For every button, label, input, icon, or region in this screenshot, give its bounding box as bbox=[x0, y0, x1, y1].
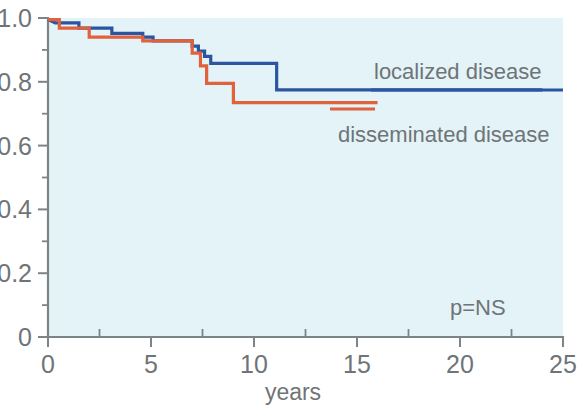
x-tick-label: 20 bbox=[446, 350, 474, 378]
x-tick-label: 25 bbox=[549, 350, 577, 378]
x-tick-label: 0 bbox=[41, 350, 55, 378]
x-tick-label: 5 bbox=[144, 350, 158, 378]
x-tick-label: 10 bbox=[240, 350, 268, 378]
x-tick-label: 15 bbox=[343, 350, 371, 378]
y-tick-label: 0.4 bbox=[0, 195, 32, 223]
y-tick-label: 0.6 bbox=[0, 132, 32, 160]
y-axis-tick-labels: 00.20.40.60.81.0 bbox=[0, 4, 32, 351]
x-axis-tick-labels: 0510152025 bbox=[41, 350, 577, 378]
chart-canvas: 00.20.40.60.81.0 0510152025 years locali… bbox=[0, 0, 586, 410]
y-tick-label: 1.0 bbox=[0, 4, 32, 32]
km-survival-chart: 00.20.40.60.81.0 0510152025 years locali… bbox=[0, 0, 586, 410]
y-tick-label: 0.2 bbox=[0, 259, 32, 287]
legend-label-localized: localized disease bbox=[374, 59, 542, 84]
legend-label-disseminated: disseminated disease bbox=[338, 122, 550, 147]
y-tick-label: 0 bbox=[18, 323, 32, 351]
y-axis-ticks bbox=[38, 18, 48, 337]
x-axis-title: years bbox=[265, 379, 321, 405]
p-value-annotation: p=NS bbox=[450, 295, 506, 320]
y-tick-label: 0.8 bbox=[0, 68, 32, 96]
